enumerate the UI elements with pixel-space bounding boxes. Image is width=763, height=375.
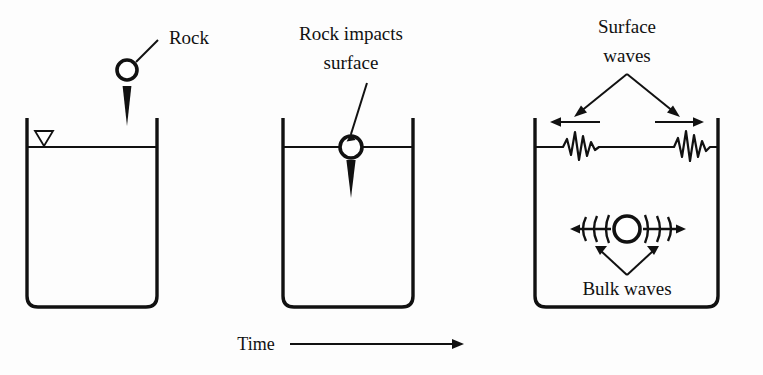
bulk-wave-source-icon xyxy=(614,216,640,242)
surface-wave-packet-left xyxy=(558,132,604,160)
rock-label-leader-line xyxy=(136,40,158,62)
rock-impacts-label-line1: Rock impacts xyxy=(299,23,403,44)
rock-label: Rock xyxy=(169,27,210,48)
bulk-waves-leader-left xyxy=(601,251,627,275)
fall-arrow-icon-panel2 xyxy=(346,160,355,198)
panel-waves: Surface waves xyxy=(535,16,718,307)
impact-label-leader-line xyxy=(351,83,367,134)
fall-arrow-icon-panel1 xyxy=(123,86,132,126)
panel-before-impact: Rock xyxy=(27,27,210,307)
bulk-waves-leader-right xyxy=(627,251,653,275)
surface-waves-leader-left xyxy=(580,74,627,112)
diagram-canvas: Rock Rock impacts surface xyxy=(0,0,763,375)
bulk-waves-label: Bulk waves xyxy=(582,278,671,299)
surface-wave-arrow-left-head-icon xyxy=(550,117,561,127)
physics-diagram: Rock Rock impacts surface xyxy=(0,0,763,375)
rock-impacts-label-line2: surface xyxy=(324,52,379,73)
bulk-waves-group: Bulk waves xyxy=(570,215,686,299)
surface-wave-arrow-right-head-icon xyxy=(693,117,704,127)
surface-wave-packet-right xyxy=(670,131,714,161)
bulk-ray-arrowhead-left-icon xyxy=(570,225,580,234)
time-axis-arrowhead-icon xyxy=(452,339,464,349)
surface-waves-label-line1: Surface xyxy=(598,16,656,37)
rock-icon-panel1 xyxy=(117,60,137,80)
surface-waves-label-line2: waves xyxy=(603,45,650,66)
time-axis-label: Time xyxy=(237,334,274,354)
water-level-marker-icon xyxy=(35,131,53,146)
bulk-ray-arrowhead-right-icon xyxy=(676,225,686,234)
panel-impact: Rock impacts surface xyxy=(283,23,413,307)
surface-waves-leader-right xyxy=(627,74,674,112)
time-axis: Time xyxy=(237,334,464,354)
